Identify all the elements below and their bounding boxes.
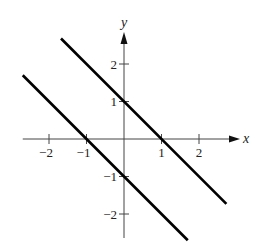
x-axis-arrow-icon bbox=[229, 136, 240, 143]
x-tick-label: 2 bbox=[196, 145, 203, 160]
y-axis-label: y bbox=[119, 15, 128, 30]
y-tick-label: −2 bbox=[103, 207, 117, 222]
x-axis-label: x bbox=[242, 131, 250, 146]
axes bbox=[23, 32, 240, 238]
x-tick-label: −2 bbox=[39, 145, 53, 160]
x-tick-label: 1 bbox=[158, 145, 165, 160]
x-tick-label: −1 bbox=[77, 145, 91, 160]
data-line bbox=[61, 39, 226, 204]
y-tick-label: 2 bbox=[111, 57, 118, 72]
y-tick-label: 1 bbox=[111, 94, 118, 109]
y-axis-arrow-icon bbox=[121, 32, 128, 44]
chart: −2−11221−1−2 x y bbox=[0, 0, 257, 250]
y-tick-label: −1 bbox=[103, 169, 117, 184]
